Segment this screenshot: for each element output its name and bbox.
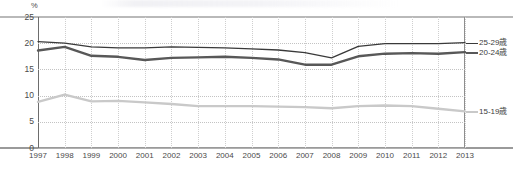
cropped-title-strip xyxy=(100,0,400,7)
x-tick-2013: 2013 xyxy=(453,150,478,161)
x-tick-2004: 2004 xyxy=(212,150,237,161)
x-tick-2007: 2007 xyxy=(292,150,317,161)
y-tick-20: 20 xyxy=(25,39,34,48)
x-tick-1997: 1997 xyxy=(26,150,51,161)
x-tick-2005: 2005 xyxy=(239,150,264,161)
x-tick-2003: 2003 xyxy=(186,150,211,161)
legend-swatch-15-19歳 xyxy=(466,111,478,113)
legend-swatch-20-24歳 xyxy=(466,52,478,54)
x-tick-2008: 2008 xyxy=(319,150,344,161)
x-tick-2006: 2006 xyxy=(266,150,291,161)
line-chart: % 0510152025 199719981999200020012002200… xyxy=(0,0,513,170)
y-tick-5: 5 xyxy=(29,117,34,126)
series-lines xyxy=(38,17,465,148)
series-line-15-19歳 xyxy=(38,95,465,112)
x-axis-tick-labels: 1997199819992000200120022003200420052006… xyxy=(38,149,465,163)
legend-label-20-24歳: 20-24歳 xyxy=(479,48,507,57)
x-tick-2002: 2002 xyxy=(159,150,184,161)
x-tick-2012: 2012 xyxy=(426,150,451,161)
x-tick-1999: 1999 xyxy=(79,150,104,161)
legend-label-25-29歳: 25-29歳 xyxy=(479,38,507,47)
gridline-vertical xyxy=(465,17,466,148)
legend-swatch-25-29歳 xyxy=(466,43,478,44)
y-tick-15: 15 xyxy=(25,65,34,74)
x-tick-2009: 2009 xyxy=(346,150,371,161)
plot-area xyxy=(38,17,465,148)
x-tick-2011: 2011 xyxy=(399,150,424,161)
y-axis-unit-label: % xyxy=(31,2,38,10)
y-tick-10: 10 xyxy=(25,91,34,100)
x-tick-2010: 2010 xyxy=(372,150,397,161)
y-axis-tick-labels: 0510152025 xyxy=(14,17,34,148)
legend-label-15-19歳: 15-19歳 xyxy=(479,107,507,116)
y-tick-25: 25 xyxy=(25,13,34,22)
x-tick-2001: 2001 xyxy=(132,150,157,161)
x-tick-1998: 1998 xyxy=(52,150,77,161)
x-tick-2000: 2000 xyxy=(106,150,131,161)
